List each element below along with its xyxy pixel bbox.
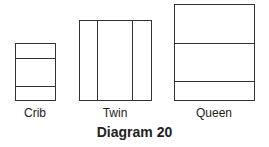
twin-shape [79, 20, 152, 101]
queen-division-line [175, 81, 254, 82]
diagram-title: Diagram 20 [0, 124, 269, 140]
queen-shape [174, 4, 255, 101]
crib-division-line [16, 86, 55, 87]
crib-label: Crib [0, 106, 75, 120]
queen-label: Queen [174, 106, 254, 120]
crib-division-line [16, 58, 55, 59]
queen-division-line [175, 43, 254, 44]
twin-division-line [132, 21, 133, 100]
twin-label: Twin [75, 106, 155, 120]
twin-division-line [97, 21, 98, 100]
crib-shape [15, 43, 56, 101]
